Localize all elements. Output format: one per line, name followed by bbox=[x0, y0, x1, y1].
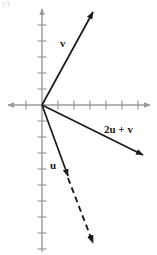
vector-v-label: v bbox=[60, 38, 66, 49]
vector-diagram-figure: y) bbox=[0, 0, 157, 255]
vector-u-label: u bbox=[50, 160, 56, 171]
vector-sum-label: 2u + v bbox=[104, 124, 133, 135]
vector-2u-dashed-arrow bbox=[68, 178, 93, 243]
coordinate-plane-svg bbox=[0, 0, 157, 255]
y-axis bbox=[38, 9, 47, 252]
x-axis bbox=[8, 101, 150, 110]
vector-v-arrow bbox=[42, 12, 93, 105]
